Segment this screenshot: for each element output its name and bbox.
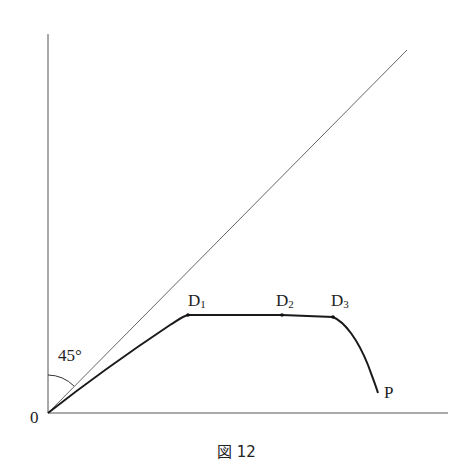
origin-label: 0	[30, 408, 39, 427]
diagram-canvas: 0 45° D1 D2 D3 P 図 12	[0, 0, 475, 476]
curve-0-D1-D2-D3-P	[48, 315, 378, 413]
figure-caption: 図 12	[217, 443, 256, 461]
point-D3-letter: D	[331, 291, 343, 310]
diagonal-45-line	[48, 50, 407, 413]
point-D1-label: D1	[188, 291, 206, 310]
angle-arc	[48, 375, 74, 386]
point-D1-letter: D	[188, 291, 200, 310]
point-D2-letter: D	[276, 291, 288, 310]
point-D2-subscript: 2	[288, 298, 294, 310]
end-point-P-label: P	[384, 383, 393, 402]
point-D3-subscript: 3	[343, 298, 349, 310]
point-D3-label: D3	[331, 291, 349, 310]
point-D3-marker	[331, 315, 335, 319]
point-D2-label: D2	[276, 291, 294, 310]
point-D1-subscript: 1	[200, 298, 206, 310]
point-D1-marker	[186, 313, 190, 317]
angle-label: 45°	[58, 346, 82, 365]
point-D2-marker	[280, 313, 284, 317]
